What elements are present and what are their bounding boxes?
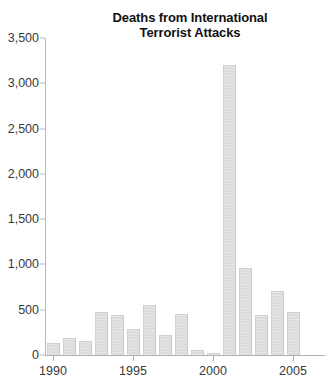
- chart-title: Deaths from International Terrorist Atta…: [60, 10, 320, 40]
- x-axis-tick-label: 1995: [119, 364, 147, 378]
- bar-1993: [95, 312, 108, 355]
- x-axis-tick-label: 1990: [39, 364, 67, 378]
- x-axis-tick-label: 2000: [199, 364, 227, 378]
- x-axis-line: [45, 355, 325, 356]
- bar-1990: [47, 343, 60, 355]
- x-axis-tick-mark: [293, 356, 294, 361]
- y-axis-tick-label: 2,000: [8, 167, 39, 181]
- bar-2004: [271, 291, 284, 355]
- y-axis-tick-label: 3,500: [8, 31, 39, 45]
- bar-2001: [223, 65, 236, 355]
- bar-1992: [79, 341, 92, 355]
- y-axis-tick-label: 3,000: [8, 76, 39, 90]
- y-axis-tick-label: 1,500: [8, 212, 39, 226]
- bar-2002: [239, 268, 252, 355]
- y-axis-tick-label: 1,000: [8, 257, 39, 271]
- x-axis-tick-mark: [213, 356, 214, 361]
- bar-1996: [143, 305, 156, 355]
- y-axis-tick-label: 0: [32, 348, 39, 362]
- bar-2003: [255, 315, 268, 355]
- bar-1994: [111, 315, 124, 355]
- bar-1997: [159, 335, 172, 355]
- y-axis-tick-label: 2,500: [8, 122, 39, 136]
- y-axis-tick-label: 500: [18, 303, 39, 317]
- bar-1995: [127, 329, 140, 355]
- bars-layer: [45, 38, 331, 355]
- bar-2005: [287, 312, 300, 355]
- chart-title-line-1: Deaths from International: [60, 10, 320, 25]
- x-axis-tick-label: 2005: [279, 364, 307, 378]
- bar-1999: [191, 350, 204, 355]
- bar-chart: Deaths from International Terrorist Atta…: [0, 0, 331, 391]
- bar-2000: [207, 353, 220, 355]
- bar-1998: [175, 314, 188, 355]
- x-axis-tick-mark: [53, 356, 54, 361]
- bar-1991: [63, 338, 76, 355]
- x-axis-tick-mark: [133, 356, 134, 361]
